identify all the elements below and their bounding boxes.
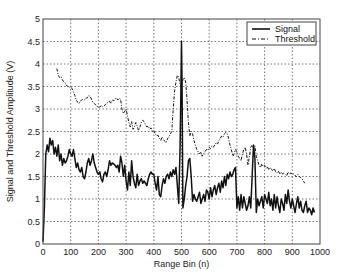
x-tick-label: 500: [174, 247, 189, 257]
x-tick-label: 900: [285, 247, 300, 257]
y-tick-label: 2.5: [27, 127, 40, 137]
y-tick-label: 5: [35, 14, 40, 24]
y-tick-label: 3.5: [27, 82, 40, 92]
y-tick-label: 4.5: [27, 37, 40, 47]
x-tick-label: 100: [63, 247, 78, 257]
y-tick-label: 4: [35, 59, 40, 69]
y-tick-label: 0: [35, 239, 40, 249]
y-axis-label: Signal and Threshold Amplitude (V): [5, 61, 15, 202]
x-tick-label: 700: [229, 247, 244, 257]
legend-threshold-label: Threshold: [275, 34, 315, 44]
x-tick-label: 600: [202, 247, 217, 257]
x-tick-label: 800: [257, 247, 272, 257]
legend: Signal Threshold: [247, 22, 316, 45]
x-tick-label: 300: [119, 247, 134, 257]
y-tick-label: 2: [35, 149, 40, 159]
x-axis-label: Range Bin (n): [154, 259, 210, 269]
line-chart: 01002003004005006007008009001000 00.511.…: [0, 0, 343, 279]
y-tick-label: 1: [35, 194, 40, 204]
y-tick-label: 0.5: [27, 217, 40, 227]
y-tick-label: 3: [35, 104, 40, 114]
x-tick-label: 400: [146, 247, 161, 257]
y-tick-label: 1.5: [27, 172, 40, 182]
x-tick-label: 0: [40, 247, 45, 257]
legend-signal-label: Signal: [275, 24, 300, 34]
x-tick-label: 1000: [310, 247, 330, 257]
x-tick-label: 200: [91, 247, 106, 257]
